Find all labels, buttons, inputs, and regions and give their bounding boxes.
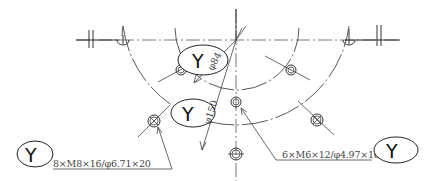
technical-drawing: Y φ84 Y φ150 8×M8×16/φ6.71×20 Y 6×M6×12/… [0, 0, 433, 181]
callout-left-text: 8×M8×16/φ6.71×20 [53, 158, 151, 169]
arrowhead-right-callout [241, 108, 247, 115]
outer-pcd-arc-left-ext [122, 26, 123, 36]
bubble-left-callout-label: Y [24, 144, 37, 166]
bubble-inner-dia-label: Y [191, 50, 204, 72]
bolt-hole-outer-left [138, 105, 170, 137]
dim-line-leader-up2 [236, 28, 242, 40]
break-mark-left [89, 30, 93, 48]
bolt-hole-outer-right [298, 101, 334, 135]
callout-right-text: 6×M6×12/φ4.97×16 [282, 149, 380, 160]
break-mark-right [377, 25, 381, 46]
bubble-outer-dia-label: Y [181, 103, 194, 125]
dim-line-leader-up [236, 26, 246, 40]
bolt-hole-outer-bottom [228, 148, 244, 160]
bubble-right-callout-label: Y [385, 140, 398, 162]
bolt-hole-inner-right [265, 56, 310, 80]
